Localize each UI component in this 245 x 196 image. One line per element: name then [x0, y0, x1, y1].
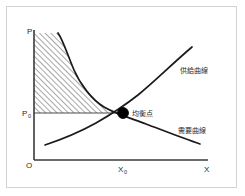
plot-canvas: P P 0 O X 0 X 供給曲線 需要曲線 均衡点: [0, 0, 245, 196]
demand-curve-label: 需要曲線: [178, 126, 206, 135]
y-axis-label: P: [27, 27, 32, 36]
supply-demand-figure: P P 0 O X 0 X 供給曲線 需要曲線 均衡点: [0, 0, 245, 196]
supply-curve-label: 供給曲線: [180, 66, 208, 75]
origin-label: O: [26, 161, 32, 170]
price-tick-subscript: 0: [28, 113, 31, 119]
consumer-surplus-region: [34, 33, 127, 113]
quantity-tick-subscript: 0: [124, 169, 127, 175]
equilibrium-point-label: 均衡点: [132, 109, 153, 118]
x-axis-label: X: [204, 165, 210, 174]
price-tick-label: P: [22, 109, 27, 118]
equilibrium-point-marker: [118, 108, 129, 119]
